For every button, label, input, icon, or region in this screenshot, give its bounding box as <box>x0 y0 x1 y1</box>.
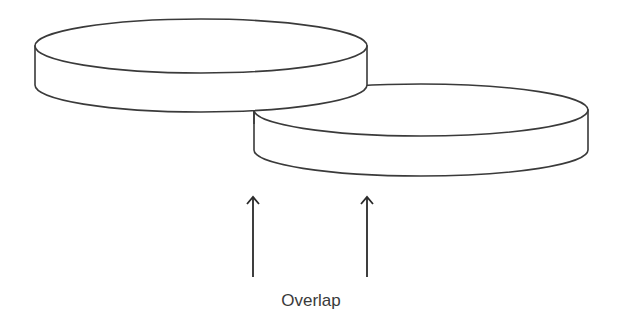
overlap-label: Overlap <box>281 291 341 310</box>
overlap-diagram: Overlap <box>0 0 619 334</box>
right-overlap-arrow <box>361 197 373 277</box>
upper-disk-top-face <box>35 19 367 73</box>
left-overlap-arrow <box>247 197 259 277</box>
upper-left-disk <box>35 19 367 112</box>
